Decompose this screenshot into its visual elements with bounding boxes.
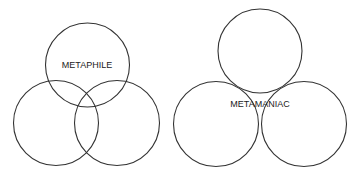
bottom-right-circle	[75, 81, 160, 166]
top-circle	[218, 9, 302, 93]
bottom-right-circle	[262, 82, 347, 167]
metaphile-venn: METAPHILE	[14, 23, 160, 166]
metamaniac-label: METAMANIAC	[230, 99, 290, 109]
metaphile-label: METAPHILE	[62, 60, 112, 70]
metamaniac-venn: METAMANIAC	[174, 9, 347, 167]
venn-diagrams-canvas: METAPHILE METAMANIAC	[0, 0, 357, 175]
bottom-left-circle	[174, 82, 259, 167]
